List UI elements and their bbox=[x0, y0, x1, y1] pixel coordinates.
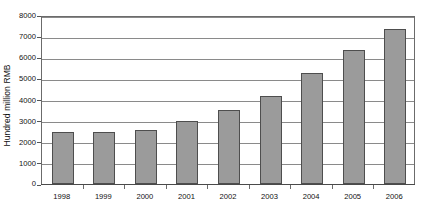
plot-area bbox=[41, 16, 415, 185]
x-axis-tick-mark bbox=[332, 185, 333, 189]
bar-chart-figure: Hundred million RMB 10002000300040005000… bbox=[0, 0, 427, 211]
x-axis-tick-mark bbox=[249, 185, 250, 189]
y-axis-tick-mark bbox=[37, 79, 41, 80]
y-axis-tick-mark bbox=[37, 16, 41, 17]
y-axis-tick-label: 7000 bbox=[8, 33, 36, 41]
x-axis-tick-mark bbox=[124, 185, 125, 189]
x-axis-tick-label: 2005 bbox=[331, 192, 375, 201]
y-axis-tick-label: 2000 bbox=[8, 139, 36, 147]
bars-group bbox=[42, 17, 414, 184]
x-axis-line bbox=[41, 184, 415, 185]
bar bbox=[218, 110, 240, 184]
y-axis-tick-mark bbox=[37, 58, 41, 59]
y-axis-tick-label: 1000 bbox=[8, 160, 36, 168]
x-axis-tick-label: 2003 bbox=[248, 192, 292, 201]
bar bbox=[135, 130, 157, 184]
bar bbox=[52, 132, 74, 184]
x-axis-tick-mark bbox=[207, 185, 208, 189]
bar bbox=[176, 121, 198, 184]
x-axis-tick-mark bbox=[373, 185, 374, 189]
x-axis-tick-label: 2002 bbox=[206, 192, 250, 201]
bar bbox=[343, 50, 365, 184]
x-axis-tick-label: 2001 bbox=[164, 192, 208, 201]
bar bbox=[93, 132, 115, 184]
bar bbox=[384, 29, 406, 184]
y-axis-tick-mark bbox=[37, 100, 41, 101]
y-axis-tick-mark bbox=[37, 121, 41, 122]
y-axis-tick-label: 8000 bbox=[8, 12, 36, 20]
y-axis-tick-mark bbox=[37, 37, 41, 38]
y-axis-tick-label-group: 10002000300040005000600070008000 bbox=[8, 10, 36, 190]
x-axis-tick-mark bbox=[83, 185, 84, 189]
x-axis-tick-label: 1999 bbox=[81, 192, 125, 201]
x-axis-tick-label: 2006 bbox=[372, 192, 416, 201]
y-axis-tick-label: 6000 bbox=[8, 54, 36, 62]
y-axis-tick-mark bbox=[37, 163, 41, 164]
bar bbox=[301, 73, 323, 184]
y-axis-tick-label: 5000 bbox=[8, 75, 36, 83]
x-axis-tick-mark bbox=[290, 185, 291, 189]
bar bbox=[260, 96, 282, 184]
y-axis-tick-label-zero: 0 bbox=[8, 180, 36, 188]
x-axis-tick-label: 2004 bbox=[289, 192, 333, 201]
x-axis-tick-label: 2000 bbox=[123, 192, 167, 201]
x-axis-tick-mark bbox=[166, 185, 167, 189]
y-axis-tick-label: 4000 bbox=[8, 97, 36, 105]
y-axis-tick-mark bbox=[37, 142, 41, 143]
y-axis-tick-label: 3000 bbox=[8, 118, 36, 126]
x-axis-tick-label: 1998 bbox=[40, 192, 84, 201]
y-axis-tick-mark bbox=[37, 185, 41, 186]
